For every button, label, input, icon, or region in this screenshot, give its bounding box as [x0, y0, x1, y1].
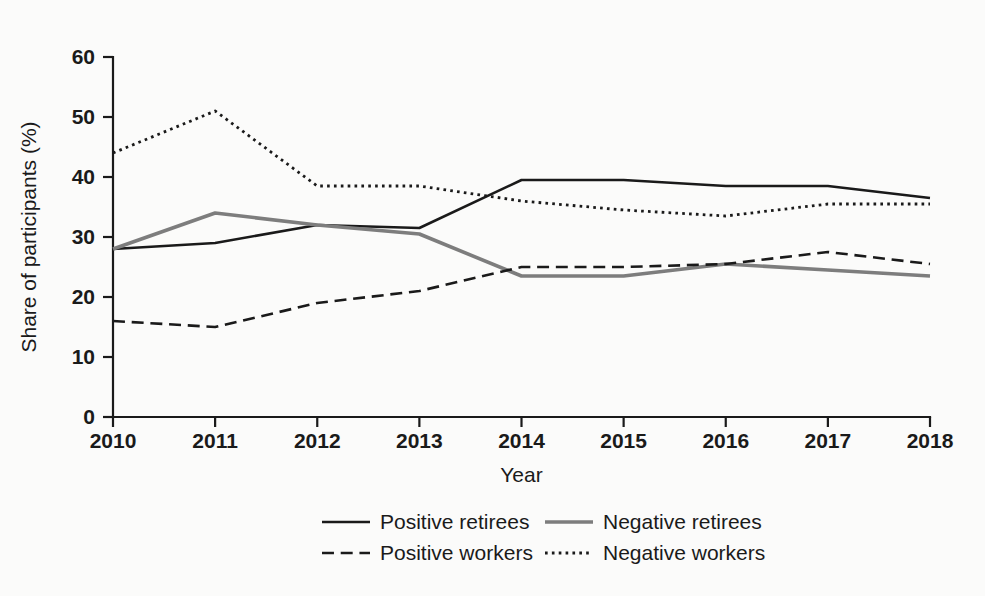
x-axis-tick-label: 2014 [498, 429, 545, 452]
legend-label-negative-workers: Negative workers [603, 541, 765, 564]
y-axis-tick-label: 50 [72, 105, 95, 128]
legend-label-positive-retirees: Positive retirees [380, 510, 529, 533]
y-axis-tick-label: 30 [72, 225, 95, 248]
x-axis-tick-label: 2015 [600, 429, 647, 452]
legend-label-negative-retirees: Negative retirees [603, 510, 762, 533]
y-axis-tick-label: 10 [72, 345, 95, 368]
x-axis-tick-label: 2016 [702, 429, 749, 452]
x-axis-tick-label: 2012 [294, 429, 341, 452]
x-axis-title: Year [500, 463, 542, 486]
line-chart: 0102030405060 20102011201220132014201520… [0, 0, 985, 596]
x-axis: 201020112012201320142015201620172018 [90, 417, 954, 452]
figure-container: 0102030405060 20102011201220132014201520… [0, 0, 985, 596]
x-axis-tick-label: 2013 [396, 429, 443, 452]
x-axis-tick-label: 2010 [90, 429, 137, 452]
series-line-negative-workers [113, 111, 930, 216]
y-axis-tick-label: 40 [72, 165, 95, 188]
x-axis-tick-label: 2018 [907, 429, 954, 452]
x-axis-tick-label: 2011 [192, 429, 238, 452]
series-line-positive-workers [113, 252, 930, 327]
x-axis-tick-label: 2017 [805, 429, 852, 452]
y-axis-tick-label: 20 [72, 285, 95, 308]
y-axis-tick-label: 60 [72, 45, 95, 68]
chart-legend: Positive retireesNegative retireesPositi… [322, 510, 765, 564]
y-axis-tick-label: 0 [83, 405, 95, 428]
legend-label-positive-workers: Positive workers [380, 541, 533, 564]
y-axis: 0102030405060 [72, 45, 113, 428]
series-layer [113, 111, 930, 327]
y-axis-title: Share of participants (%) [17, 121, 40, 352]
